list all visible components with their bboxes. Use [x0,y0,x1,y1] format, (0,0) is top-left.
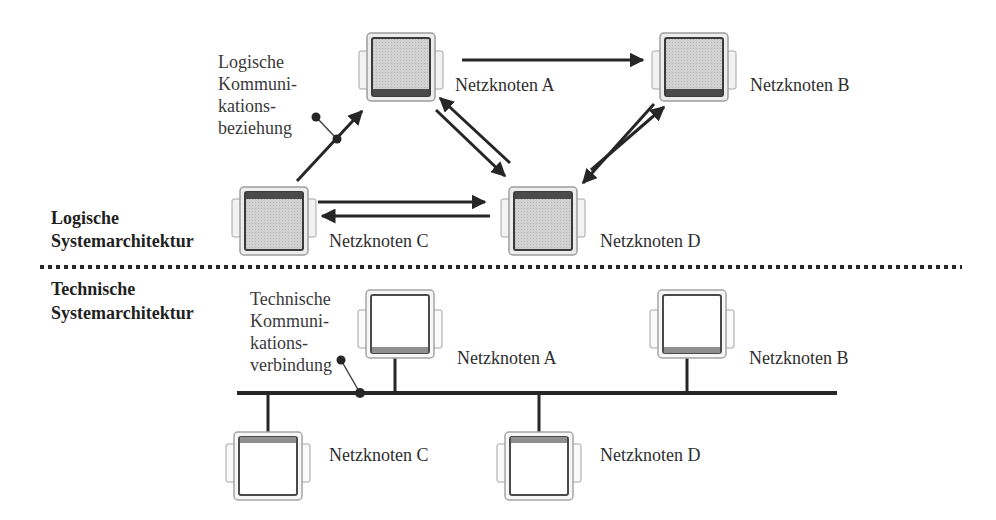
annotation-line: Technische [250,288,332,310]
technical-comm-annotation: Technische Kommuni- kations- verbindung [250,288,332,376]
logical-comm-pointer [312,113,342,144]
logical-comm-annotation: Logische Kommuni- kations- beziehung [218,51,297,139]
technical-node-a-label: Netzknoten A [457,347,556,369]
annotation-line: beziehung [218,117,297,139]
section-technical-line1: Technische [51,278,135,300]
section-logical-line1: Logische [51,207,119,229]
arrow-d-to-a [440,98,510,163]
architecture-diagram: Logische Systemarchitektur Technische Sy… [0,0,996,520]
logical-node-c-icon [232,187,316,255]
logical-node-c-label: Netzknoten C [329,230,428,252]
technical-node-c-label: Netzknoten C [329,444,428,466]
logical-node-b-label: Netzknoten B [750,74,849,96]
technical-node-a-icon [358,290,442,358]
technical-node-b-label: Netzknoten B [749,347,848,369]
arrow-b-to-d [583,104,654,183]
annotation-line: verbindung [250,354,332,376]
annotation-line: Kommuni- [250,310,332,332]
annotation-line: kations- [218,95,297,117]
logical-node-a-icon [359,33,443,101]
annotation-line: kations- [250,332,332,354]
section-logical-line2: Systemarchitektur [51,230,194,252]
arrow-a-to-d [436,110,505,176]
technical-node-d-icon [497,432,581,500]
logical-node-a-label: Netzknoten A [455,74,554,96]
arrow-c-to-a [297,111,362,181]
annotation-line: Kommuni- [218,73,297,95]
logical-node-d-icon [501,187,585,255]
section-technical-line2: Systemarchitektur [51,302,194,324]
annotation-line: Logische [218,51,297,73]
logical-node-b-icon [652,33,736,101]
technical-node-c-icon [226,432,310,500]
logical-node-d-label: Netzknoten D [600,230,700,252]
technical-node-d-label: Netzknoten D [600,444,700,466]
technical-node-b-icon [650,290,734,358]
